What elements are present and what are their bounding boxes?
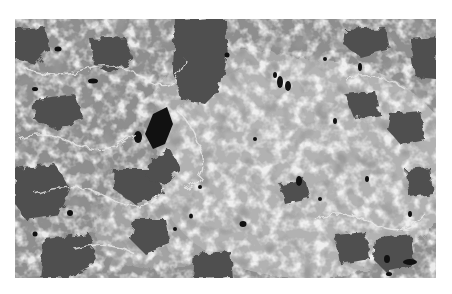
micrograph-texture	[15, 19, 436, 278]
micrograph-image	[15, 19, 436, 278]
